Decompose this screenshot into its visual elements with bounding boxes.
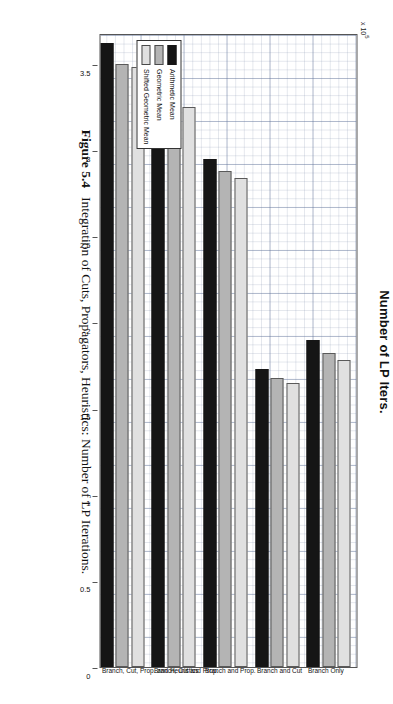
axis-multiplier-base: x 10 <box>360 22 367 35</box>
category-label: Branch, Cut, Prop. and Heuristics <box>102 667 198 674</box>
chart-legend: Arithmetic MeanGeometric MeanShifted Geo… <box>136 40 181 149</box>
axis-multiplier-label: x 105 <box>360 22 369 39</box>
axis-multiplier-exponent: 5 <box>363 35 369 38</box>
bar <box>337 360 350 667</box>
bar-group <box>255 35 299 667</box>
bar <box>182 107 195 667</box>
bar-group <box>306 35 350 667</box>
bar <box>203 159 216 667</box>
bar <box>100 43 113 667</box>
caption-text: Integration of Cuts, Propagators, Heuris… <box>78 197 93 574</box>
category-label: Branch and Cut <box>256 667 301 674</box>
legend-swatch <box>167 45 176 65</box>
bar <box>115 64 128 667</box>
bar <box>219 171 232 667</box>
figure-caption: Figure 5.4Integration of Cuts, Propagato… <box>77 0 93 704</box>
category-label: Branch Only <box>308 667 344 674</box>
legend-label: Arithmetic Mean <box>168 69 175 120</box>
bar <box>286 383 299 667</box>
bar-chart: Number of LP Iters. x 105 Branch OnlyBra… <box>63 0 393 704</box>
chart-title: Number of LP Iters. <box>376 0 391 704</box>
legend-swatch <box>154 45 163 65</box>
bar <box>167 102 180 667</box>
bar <box>270 378 283 667</box>
figure-root: Number of LP Iters. x 105 Branch OnlyBra… <box>0 0 393 704</box>
legend-swatch <box>141 45 150 65</box>
caption-number: Figure 5.4 <box>78 130 93 188</box>
legend-item: Geometric Mean <box>153 45 164 144</box>
legend-item: Arithmetic Mean <box>166 45 177 144</box>
legend-label: Geometric Mean <box>155 69 162 121</box>
bar <box>151 78 164 667</box>
bar <box>234 178 247 667</box>
bar <box>131 67 144 667</box>
bar <box>255 369 268 667</box>
bar <box>322 353 335 667</box>
legend-label: Shifted Geometric Mean <box>142 69 149 144</box>
category-axis-labels: Branch OnlyBranch and CutBranch and Prop… <box>99 668 357 704</box>
legend-item: Shifted Geometric Mean <box>140 45 151 144</box>
bar-group <box>203 35 247 667</box>
bar <box>306 340 319 667</box>
